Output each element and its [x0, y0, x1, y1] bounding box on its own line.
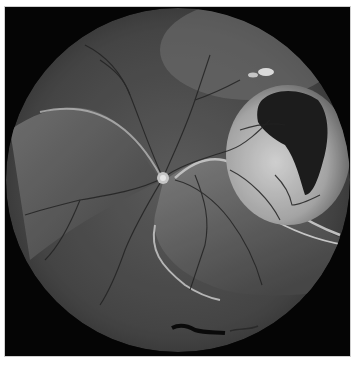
fundus-illustration	[0, 0, 355, 365]
